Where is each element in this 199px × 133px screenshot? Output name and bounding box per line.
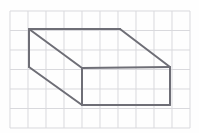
top-right-diagonal — [120, 29, 170, 67]
rectangular-prism-figure — [0, 0, 199, 133]
figure-canvas — [0, 0, 199, 133]
bottom-left-diagonal — [29, 67, 82, 105]
top-front-edge — [82, 67, 170, 68]
top-left-diagonal — [29, 29, 82, 68]
